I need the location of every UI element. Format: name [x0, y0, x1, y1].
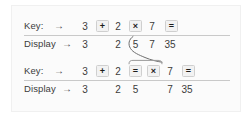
key-button-multiply[interactable]: ×: [147, 65, 160, 77]
right-arrow-icon: →: [62, 39, 72, 49]
right-arrow-icon: →: [62, 84, 72, 94]
key-token-digit-2: 2: [113, 20, 123, 33]
key-button-multiply[interactable]: ×: [129, 20, 142, 32]
key-token-digit-3: 3: [80, 20, 90, 33]
key-row-1: Key: → 3 + 2 × 7 =: [12, 19, 240, 34]
display-token-5: 5: [130, 38, 141, 51]
key-token-digit-3: 3: [80, 65, 90, 78]
key-token-digit-2: 2: [113, 65, 123, 78]
key-row-label: Key:: [24, 20, 43, 31]
display-token-7: 7: [147, 38, 157, 51]
key-token-digit-7: 7: [147, 20, 157, 33]
key-row-label: Key:: [24, 65, 43, 76]
display-row-label: Display: [24, 38, 56, 49]
key-button-equals[interactable]: =: [165, 20, 178, 32]
display-token-3: 3: [80, 38, 90, 51]
keystroke-diagram-panel: Key: → 3 + 2 × 7 = Display → 3 2 5 7 35 …: [11, 5, 241, 112]
key-button-equals-inserted[interactable]: =: [129, 65, 142, 77]
key-row-2: Key: → 3 + 2 = × 7 =: [12, 64, 240, 79]
display-token-5: 5: [130, 83, 141, 96]
display-row-label: Display: [24, 83, 56, 94]
right-arrow-icon: →: [54, 21, 64, 31]
display-token-7: 7: [165, 83, 175, 96]
display-token-35: 35: [162, 38, 178, 51]
display-row-1: Display → 3 2 5 7 35: [12, 37, 240, 52]
display-token-2: 2: [113, 38, 123, 51]
display-row-2: Display → 3 2 5 7 35: [12, 82, 240, 97]
display-token-3: 3: [80, 83, 90, 96]
right-arrow-icon: →: [54, 66, 64, 76]
key-button-plus[interactable]: +: [96, 65, 109, 77]
divider-2: [24, 80, 230, 81]
display-token-2: 2: [113, 83, 123, 96]
divider-1: [24, 35, 230, 36]
display-token-35: 35: [179, 83, 195, 96]
key-token-digit-7: 7: [165, 65, 175, 78]
key-button-plus[interactable]: +: [96, 20, 109, 32]
key-button-equals[interactable]: =: [182, 65, 195, 77]
